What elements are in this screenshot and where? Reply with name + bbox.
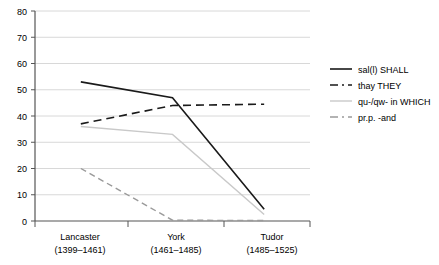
x-label-tudor: Tudor (260, 232, 283, 242)
y-label-70: 70 (17, 33, 27, 43)
y-label-20: 20 (17, 164, 27, 174)
y-label-80: 80 (17, 7, 27, 17)
y-label-60: 60 (17, 59, 27, 69)
y-axis-labels: 80 70 60 50 40 30 20 10 0 (17, 7, 27, 227)
legend-label-3: pr.p. -and (358, 113, 396, 123)
x-label-york: York (167, 232, 185, 242)
legend-label-2: qu-/qw- in WHICH (358, 97, 431, 107)
line-chart: 80 70 60 50 40 30 20 10 0 Lancaster (139… (0, 0, 439, 265)
y-label-10: 10 (17, 190, 27, 200)
x-sublabel-york: (1461–1485) (150, 245, 201, 255)
chart-background (0, 0, 439, 265)
x-label-lancaster: Lancaster (60, 232, 100, 242)
y-label-50: 50 (17, 85, 27, 95)
legend-label-1: thay THEY (358, 81, 401, 91)
y-label-0: 0 (22, 217, 27, 227)
x-sublabel-tudor: (1485–1525) (246, 245, 297, 255)
legend-label-0: sal(l) SHALL (358, 65, 409, 75)
y-label-30: 30 (17, 138, 27, 148)
chart-canvas: 80 70 60 50 40 30 20 10 0 Lancaster (139… (0, 0, 439, 265)
y-label-40: 40 (17, 112, 27, 122)
x-sublabel-lancaster: (1399–1461) (54, 245, 105, 255)
